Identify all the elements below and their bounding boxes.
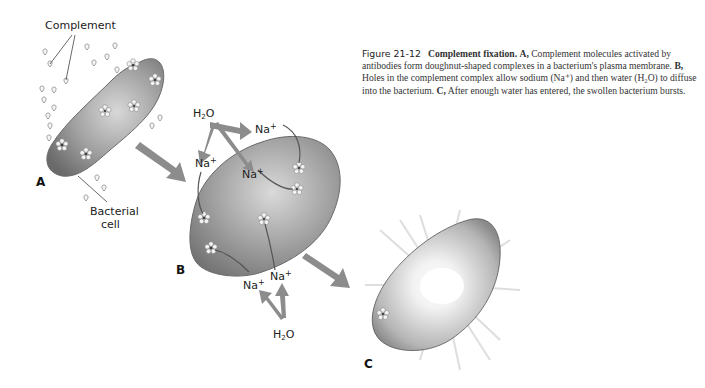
label-na-bottom-left: Na+ xyxy=(243,279,265,291)
burst-center xyxy=(420,268,464,304)
caption-letter-a: A, xyxy=(519,48,528,59)
panel-b xyxy=(190,122,340,320)
label-h2o-top: H2O xyxy=(193,108,214,121)
label-na-top-right: Na+ xyxy=(255,123,277,135)
label-na-bottom-right: Na+ xyxy=(270,270,292,282)
figure-caption: Figure 21-12 Complement fixation. A, Com… xyxy=(362,48,702,97)
panel-letter-c: C xyxy=(364,357,373,371)
caption-letter-c: C, xyxy=(437,85,446,96)
label-na-left: Na+ xyxy=(195,157,217,169)
caption-text-c: After enough water has entered, the swol… xyxy=(446,85,686,96)
arrow-b-to-c-icon xyxy=(302,253,350,288)
panel-letter-b: B xyxy=(176,263,185,277)
bacterium-a xyxy=(47,59,164,177)
panel-letter-a: A xyxy=(36,175,45,189)
arrow-a-to-b-icon xyxy=(135,142,186,182)
caption-letter-b: B, xyxy=(674,60,683,71)
leader-line xyxy=(50,35,72,64)
figure-title: Complement fixation. xyxy=(428,48,517,59)
panel-c xyxy=(365,210,520,370)
label-h2o-bottom: H2O xyxy=(273,329,294,342)
figure-number: Figure 21-12 xyxy=(362,48,421,59)
panel-a xyxy=(40,35,164,202)
label-complement: Complement xyxy=(45,20,116,31)
label-cell: cell xyxy=(101,219,120,230)
label-bacterial: Bacterial xyxy=(90,206,139,217)
label-na-center: Na+ xyxy=(242,168,264,180)
